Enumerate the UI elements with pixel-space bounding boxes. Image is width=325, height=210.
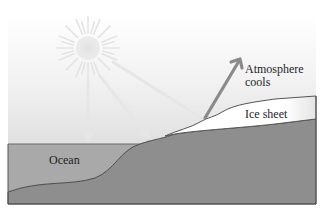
sun-icon: [57, 17, 119, 79]
atmosphere-cools-label: Atmosphere cools: [245, 63, 304, 89]
ice-albedo-diagram: Atmosphere cools Ice sheet Ocean: [0, 0, 325, 210]
ice-sheet-label: Ice sheet: [245, 108, 287, 121]
diagram-canvas: [0, 0, 325, 210]
ocean-label: Ocean: [49, 154, 80, 167]
